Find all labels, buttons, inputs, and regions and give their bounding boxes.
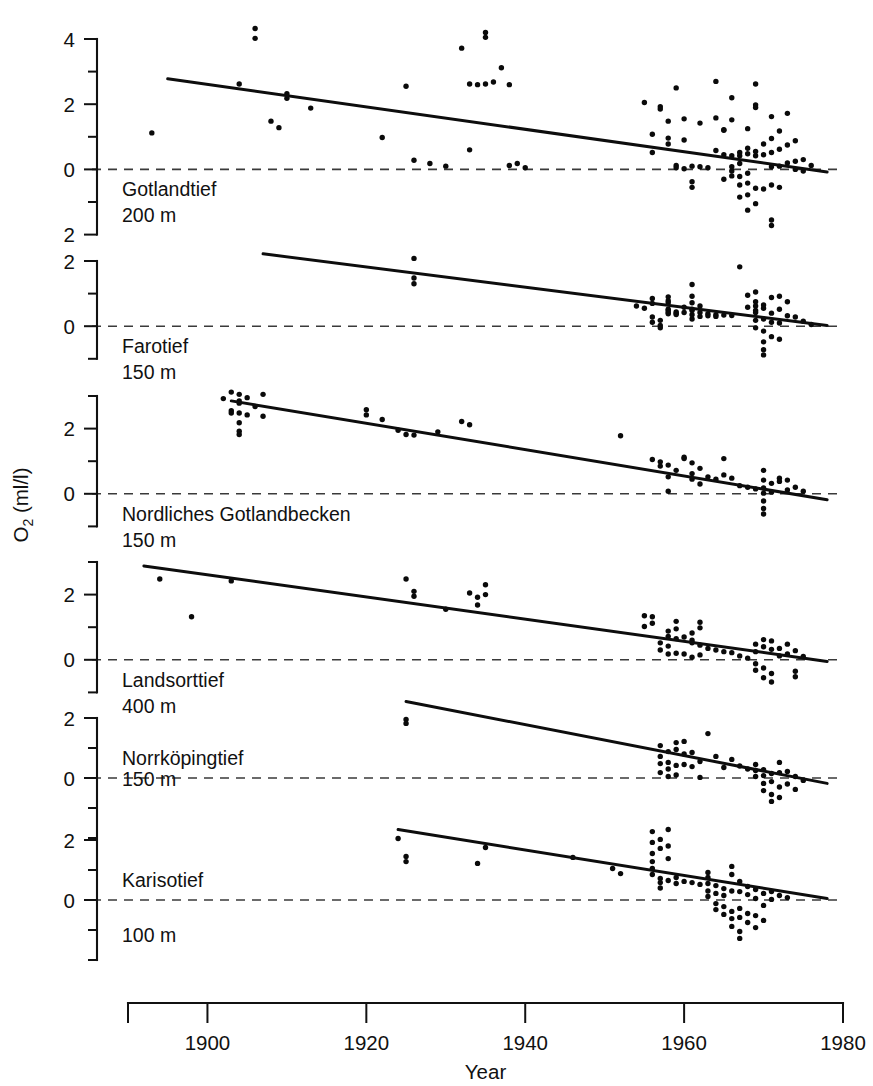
panel-name-label: Gotlandtief [122, 178, 217, 200]
data-point [666, 628, 671, 633]
panel-name-label: Karisotief [122, 869, 204, 891]
data-point [705, 165, 710, 170]
data-point [761, 347, 766, 352]
data-point [666, 135, 671, 140]
data-point [642, 306, 647, 311]
data-point [737, 889, 742, 894]
panel-name-label: Norrköpingtief [122, 747, 244, 769]
data-point [634, 303, 639, 308]
panel-depth-label: 150 m [122, 768, 176, 790]
data-point [753, 896, 758, 901]
data-point [689, 630, 694, 635]
data-point [737, 653, 742, 658]
data-point [252, 36, 257, 41]
data-point [650, 150, 655, 155]
data-point [681, 762, 686, 767]
data-point [681, 137, 686, 142]
data-point [658, 770, 663, 775]
trend-line [144, 566, 827, 662]
x-tick-label-1980: 1980 [820, 1031, 866, 1054]
y-axis-title: O2 (ml/l) [9, 468, 36, 543]
data-point [761, 468, 766, 473]
data-point [666, 856, 671, 861]
data-point [689, 185, 694, 190]
data-point [673, 740, 678, 745]
x-tick-label-1920: 1920 [344, 1031, 390, 1054]
data-point [745, 293, 750, 298]
data-point [777, 294, 782, 299]
data-point [769, 897, 774, 902]
data-point [729, 117, 734, 122]
data-point [705, 313, 710, 318]
data-point [769, 792, 774, 797]
data-point [697, 882, 702, 887]
data-point [666, 651, 671, 656]
data-point [785, 781, 790, 786]
data-point [689, 654, 694, 659]
data-point [658, 837, 663, 842]
panel-farotief: 20Farotief150 m [64, 250, 837, 384]
data-point [650, 457, 655, 462]
data-point [260, 414, 265, 419]
data-point [745, 126, 750, 131]
y-tick-label-2: 2 [64, 417, 75, 440]
x-tick-label-1960: 1960 [661, 1031, 707, 1054]
data-point [729, 872, 734, 877]
data-point [705, 888, 710, 893]
data-point [666, 827, 671, 832]
data-point [737, 161, 742, 166]
data-point [237, 420, 242, 425]
panel-depth-label: 150 m [122, 361, 176, 383]
data-point [769, 136, 774, 141]
data-point [777, 307, 782, 312]
data-point [697, 620, 702, 625]
y-axis-title-text: O2 (ml/l) [9, 468, 36, 543]
y-tick-label-0: 0 [64, 482, 75, 505]
data-point [403, 576, 408, 581]
oxygen-trend-chart: 4202Gotlandtief200 m20Farotief150 m20Nor… [0, 0, 873, 1086]
data-point [769, 638, 774, 643]
y-tick-label-0: 0 [64, 315, 75, 338]
data-point [793, 674, 798, 679]
data-point [467, 590, 472, 595]
data-point [673, 468, 678, 473]
data-point [673, 651, 678, 656]
data-points [411, 256, 814, 358]
panel-depth-label: 200 m [122, 204, 176, 226]
data-point [673, 772, 678, 777]
data-point [753, 153, 758, 158]
data-point [753, 661, 758, 666]
data-point [650, 296, 655, 301]
data-point [483, 582, 488, 587]
data-point [793, 648, 798, 653]
data-point [364, 412, 369, 417]
data-point [777, 784, 782, 789]
data-point [713, 314, 718, 319]
data-point [650, 614, 655, 619]
data-point [229, 389, 234, 394]
data-point [745, 911, 750, 916]
data-point [673, 763, 678, 768]
data-point [658, 885, 663, 890]
data-point [737, 936, 742, 941]
data-point [459, 45, 464, 50]
data-point [157, 576, 162, 581]
data-point [761, 141, 766, 146]
data-point [801, 488, 806, 493]
data-point [785, 299, 790, 304]
data-point [308, 105, 313, 110]
data-point [642, 100, 647, 105]
data-point [666, 843, 671, 848]
data-point [785, 142, 790, 147]
x-tick-label-1940: 1940 [502, 1031, 548, 1054]
panel-landsorttief: 20Landsorttief400 m [64, 562, 837, 717]
data-point [777, 795, 782, 800]
data-point [745, 192, 750, 197]
data-point [777, 479, 782, 484]
data-point [658, 318, 663, 323]
data-point [801, 157, 806, 162]
data-point [483, 35, 488, 40]
panel-depth-label: 100 m [122, 924, 176, 946]
data-point [777, 893, 782, 898]
data-point [666, 141, 671, 146]
